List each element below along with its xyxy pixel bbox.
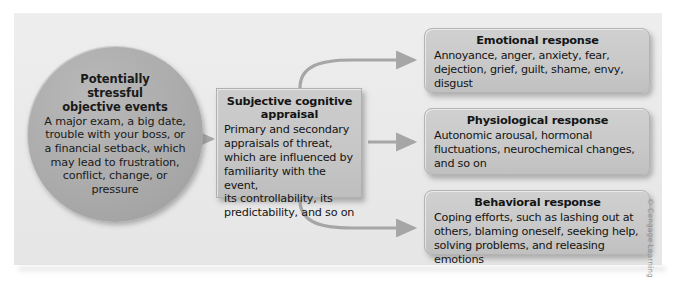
body-line: which are influenced by [224, 151, 355, 165]
body-line: solving problems, and releasing emotions [434, 239, 641, 267]
body-line: Annoyance, anger, anxiety, fear, [434, 49, 641, 63]
node-stressful-events-body: A major exam, a big date, trouble with y… [44, 115, 186, 197]
body-line: and so on [434, 157, 641, 171]
body-line: Autonomic arousal, hormonal [434, 129, 641, 143]
body-line: dejection, grief, guilt, shame, envy, [434, 63, 641, 77]
node-physiological-response: Physiological response Autonomic arousal… [424, 108, 650, 175]
title-line: objective events [44, 100, 186, 114]
body-line: conflict, change, or [44, 169, 186, 183]
body-line: its controllability, its [224, 192, 355, 206]
title-line: appraisal [224, 108, 355, 121]
body-line: Primary and secondary [224, 123, 355, 137]
body-line: Coping efforts, such as lashing out at [434, 211, 641, 225]
title-line: Potentially [44, 72, 186, 86]
body-line: may lead to frustration, [44, 156, 186, 170]
body-line: a financial setback, which [44, 142, 186, 156]
body-line: fluctuations, neurochemical changes, [434, 143, 641, 157]
node-behavioral-response-body: Coping efforts, such as lashing out at o… [434, 211, 641, 267]
body-line: familiarity with the event, [224, 165, 355, 193]
diagram-figure: Potentially stressful objective events A… [0, 0, 681, 289]
node-stressful-events-content: Potentially stressful objective events A… [44, 72, 186, 197]
panel-drop-shadow [18, 267, 666, 273]
node-behavioral-response: Behavioral response Coping efforts, such… [424, 190, 650, 255]
body-line: disgust [434, 77, 641, 91]
node-cognitive-appraisal-title: Subjective cognitive appraisal [224, 95, 355, 121]
body-line: others, blaming oneself, seeking help, [434, 225, 641, 239]
node-emotional-response-body: Annoyance, anger, anxiety, fear, dejecti… [434, 49, 641, 91]
body-line: A major exam, a big date, [44, 115, 186, 129]
title-line: Subjective cognitive [224, 95, 355, 108]
node-cognitive-appraisal: Subjective cognitive appraisal Primary a… [216, 88, 362, 198]
node-emotional-response-title: Emotional response [434, 34, 641, 48]
node-stressful-events-title: Potentially stressful objective events [44, 72, 186, 114]
copyright-credit: © Cengage Learning [646, 198, 655, 288]
body-line: trouble with your boss, or [44, 128, 186, 142]
body-line: pressure [44, 183, 186, 197]
node-behavioral-response-title: Behavioral response [434, 196, 641, 210]
body-line: appraisals of threat, [224, 137, 355, 151]
body-line: predictability, and so on [224, 206, 355, 220]
node-emotional-response: Emotional response Annoyance, anger, anx… [424, 28, 650, 93]
node-physiological-response-body: Autonomic arousal, hormonal fluctuations… [434, 129, 641, 171]
node-stressful-events: Potentially stressful objective events A… [27, 46, 203, 222]
node-cognitive-appraisal-body: Primary and secondary appraisals of thre… [224, 123, 355, 220]
node-physiological-response-title: Physiological response [434, 114, 641, 128]
title-line: stressful [44, 86, 186, 100]
